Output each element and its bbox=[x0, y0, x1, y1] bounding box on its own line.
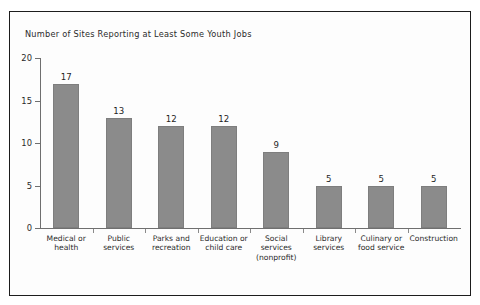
bar-value-label: 12 bbox=[204, 114, 244, 124]
y-axis-tick: 5 bbox=[35, 186, 40, 187]
bar-value-label: 5 bbox=[309, 174, 349, 184]
y-axis-tick: 10 bbox=[35, 143, 40, 144]
x-axis-category-label-line: services bbox=[251, 243, 302, 252]
x-axis-category-label: Construction bbox=[409, 234, 460, 243]
bar bbox=[53, 84, 79, 229]
chart-title: Number of Sites Reporting at Least Some … bbox=[25, 29, 252, 39]
x-axis-category-label-line: Construction bbox=[409, 234, 460, 243]
chart-page: Number of Sites Reporting at Least Some … bbox=[0, 0, 480, 305]
y-axis-tick-label: 15 bbox=[21, 96, 32, 106]
bar bbox=[368, 186, 394, 229]
x-axis-category-label: Publicservices bbox=[94, 234, 145, 253]
y-axis-tick: 20 bbox=[35, 58, 40, 59]
x-axis-category-label: Libraryservices bbox=[304, 234, 355, 253]
x-axis-category-label: Education orchild care bbox=[199, 234, 250, 253]
x-axis-category-label-line: services bbox=[304, 243, 355, 252]
bar-value-label: 13 bbox=[99, 106, 139, 116]
x-axis-category-label: Medical orhealth bbox=[41, 234, 92, 253]
x-axis-category-label: Parks andrecreation bbox=[146, 234, 197, 253]
x-axis-tick bbox=[198, 229, 199, 233]
y-axis-tick: 15 bbox=[35, 101, 40, 102]
x-axis-category-label-line: food service bbox=[356, 243, 407, 252]
y-axis-tick-label: 10 bbox=[21, 138, 32, 148]
x-axis-tick bbox=[145, 229, 146, 233]
bar bbox=[316, 186, 342, 229]
bar-value-label: 17 bbox=[46, 72, 86, 82]
y-axis-tick-label: 0 bbox=[27, 223, 32, 233]
y-axis-tick: 0 bbox=[35, 228, 40, 229]
y-axis-spine bbox=[40, 58, 41, 229]
x-axis-category-label-line: child care bbox=[199, 243, 250, 252]
x-axis-category-label-line: Culinary or bbox=[356, 234, 407, 243]
x-axis-category-label-line: Library bbox=[304, 234, 355, 243]
y-axis-tick-label: 20 bbox=[21, 53, 32, 63]
x-axis-tick bbox=[93, 229, 94, 233]
x-axis-tick bbox=[408, 229, 409, 233]
x-axis-tick bbox=[355, 229, 356, 233]
bar bbox=[158, 126, 184, 228]
x-axis-category-label-line: Education or bbox=[199, 234, 250, 243]
x-axis-category-label-line: recreation bbox=[146, 243, 197, 252]
x-axis-category-label-line: Public bbox=[94, 234, 145, 243]
x-axis-category-label-line: Medical or bbox=[41, 234, 92, 243]
y-axis-tick-label: 5 bbox=[27, 181, 32, 191]
x-axis-category-label-line: Parks and bbox=[146, 234, 197, 243]
x-axis-category-label-line: services bbox=[94, 243, 145, 252]
bar bbox=[106, 118, 132, 229]
bar bbox=[421, 186, 447, 229]
x-axis-category-label-line: health bbox=[41, 243, 92, 252]
x-axis-tick bbox=[303, 229, 304, 233]
bar-value-label: 12 bbox=[151, 114, 191, 124]
bar bbox=[211, 126, 237, 228]
bar-value-label: 9 bbox=[256, 140, 296, 150]
x-axis-category-label: Culinary orfood service bbox=[356, 234, 407, 253]
bar bbox=[263, 152, 289, 229]
x-axis-tick bbox=[250, 229, 251, 233]
x-axis-category-label-line: Social bbox=[251, 234, 302, 243]
bar-value-label: 5 bbox=[361, 174, 401, 184]
x-axis-category-label-line: (nonprofit) bbox=[251, 253, 302, 262]
x-axis-category-label: Socialservices(nonprofit) bbox=[251, 234, 302, 262]
bar-value-label: 5 bbox=[414, 174, 454, 184]
